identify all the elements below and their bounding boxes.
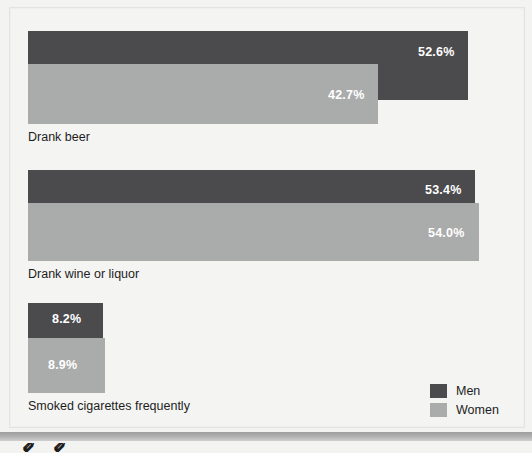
- category-label-drank-wine-or-liquor: Drank wine or liquor: [28, 267, 139, 281]
- category-label-drank-beer: Drank beer: [28, 130, 90, 144]
- bar-women-drank-beer: [28, 64, 378, 124]
- bar-value-men-smoked-cigarettes-frequently: 8.2%: [52, 312, 81, 326]
- bar-value-men-drank-wine-or-liquor: 53.4%: [425, 183, 461, 197]
- chart-page: 52.6% 42.7% Drank beer 53.4% 54.0% Drank…: [0, 0, 532, 453]
- legend-item-men: Men: [430, 381, 499, 400]
- bar-women-drank-wine-or-liquor: [28, 203, 479, 261]
- category-label-smoked-cigarettes-frequently: Smoked cigarettes frequently: [28, 399, 190, 413]
- legend-swatch-men-icon: [430, 384, 447, 398]
- footer-cropped-glyphs: ✐ ✐: [22, 443, 192, 453]
- legend-swatch-women-icon: [430, 403, 447, 417]
- chart-legend: Men Women: [430, 381, 499, 419]
- legend-label-men: Men: [456, 384, 480, 398]
- bar-value-men-drank-beer: 52.6%: [418, 45, 454, 59]
- footer-band: [0, 432, 532, 441]
- bar-value-women-drank-wine-or-liquor: 54.0%: [428, 226, 464, 240]
- bar-value-women-drank-beer: 42.7%: [328, 88, 364, 102]
- bar-value-women-smoked-cigarettes-frequently: 8.9%: [48, 358, 77, 372]
- chart-plot-area: 52.6% 42.7% Drank beer 53.4% 54.0% Drank…: [0, 0, 532, 453]
- legend-label-women: Women: [456, 403, 499, 417]
- legend-item-women: Women: [430, 400, 499, 419]
